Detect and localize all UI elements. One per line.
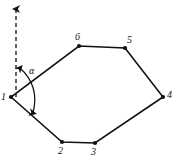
diagram-canvas bbox=[0, 0, 177, 168]
vertex-label-3: 3 bbox=[91, 147, 96, 157]
vertex-label-2: 2 bbox=[58, 146, 63, 156]
vertex-dot-1 bbox=[9, 95, 13, 99]
vertex-dot-5 bbox=[123, 46, 127, 50]
vertex-dot-4 bbox=[161, 95, 165, 99]
traverse-diagram: 1 2 3 4 5 6 α bbox=[0, 0, 177, 168]
vertex-dot-6 bbox=[77, 44, 81, 48]
vertex-label-1: 1 bbox=[1, 92, 6, 102]
vertex-dot-2 bbox=[60, 140, 64, 144]
vertex-label-4: 4 bbox=[167, 90, 172, 100]
traverse-polygon-outline bbox=[11, 46, 163, 143]
vertex-label-6: 6 bbox=[75, 32, 80, 42]
angle-alpha-label: α bbox=[29, 66, 34, 76]
vertex-dot-3 bbox=[93, 141, 97, 145]
vertex-label-5: 5 bbox=[127, 35, 132, 45]
